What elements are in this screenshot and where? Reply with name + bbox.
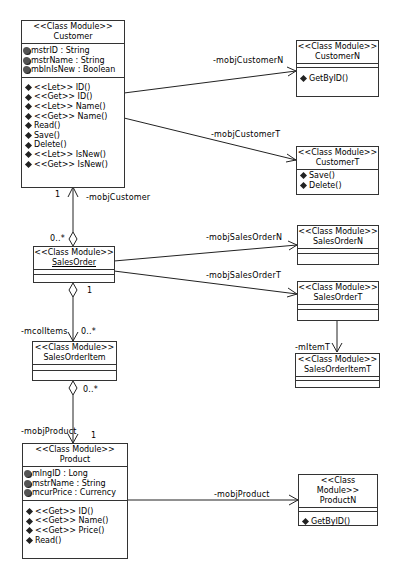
class-name: SalesOrderT xyxy=(298,293,378,303)
attribute: mlngID : Long xyxy=(24,469,126,479)
attribute: mstrName : String xyxy=(23,56,123,66)
class-name: Customer xyxy=(22,32,124,42)
class-header: <<Class Module>> Customer xyxy=(22,21,124,44)
public-method-icon xyxy=(25,84,32,91)
method: Save() xyxy=(24,131,122,141)
public-method-icon xyxy=(25,94,32,101)
public-method-icon xyxy=(26,508,33,515)
attribute: mstrID : String xyxy=(23,46,123,56)
class-customerT[interactable]: <<Class Module>> CustomerT Save() Delete… xyxy=(296,146,379,195)
attribute: mcurPrice : Currency xyxy=(24,488,126,498)
public-method-icon xyxy=(25,103,32,110)
method: <<Let>> IsNew() xyxy=(24,150,122,160)
method: <<Let>> ID() xyxy=(24,83,122,93)
stereotype: <<Class Module>> xyxy=(35,445,115,454)
class-salesorder[interactable]: <<Class Module>> SalesOrder xyxy=(33,246,115,283)
private-attribute-icon xyxy=(24,489,31,496)
stereotype: <<Class Module>> xyxy=(298,42,378,51)
role-label-productN: -mobjProduct xyxy=(214,490,270,499)
method: Delete() xyxy=(24,140,122,150)
role-label-customer: -mobjCustomer xyxy=(86,193,150,202)
class-header: <<Class Module>> SalesOrderT xyxy=(298,282,378,305)
method: <<Get>> Name() xyxy=(24,112,122,122)
stereotype: <<Class Module>> xyxy=(298,355,378,364)
multiplicity-customer-target: 0..* xyxy=(50,234,65,243)
class-salesorderN[interactable]: <<Class Module>> SalesOrderN xyxy=(297,225,379,265)
method: Read() xyxy=(25,536,125,546)
class-salesorderitemT[interactable]: <<Class Module>> SalesOrderItemT xyxy=(295,353,380,388)
private-attribute-icon xyxy=(24,480,31,487)
methods-section xyxy=(296,381,379,384)
stereotype: <<Class Module>> xyxy=(298,227,378,236)
attribute: mstrName : String xyxy=(24,479,126,489)
class-name: CustomerN xyxy=(297,52,378,62)
class-name: SalesOrderItem xyxy=(33,353,116,363)
method: <<Get>> Price() xyxy=(25,526,125,536)
stereotype: <<Class Module>> xyxy=(35,343,115,352)
method: Read() xyxy=(24,121,122,131)
methods-section: <<Get>> ID() <<Get>> Name() <<Get>> Pric… xyxy=(23,501,127,551)
multiplicity-product-source: 0..* xyxy=(83,385,98,394)
role-label-itemT: -mItemT xyxy=(295,343,330,352)
class-header: <<Class Module>> SalesOrderItemT xyxy=(296,354,379,377)
public-method-icon xyxy=(300,172,307,179)
class-name: SalesOrder xyxy=(34,258,114,268)
class-header: <<Class Module>> SalesOrderN xyxy=(298,226,378,249)
attributes-section: mlngID : Long mstrName : String mcurPric… xyxy=(23,467,127,501)
stereotype: <<Class Module>> xyxy=(298,148,378,157)
class-name: ProductN xyxy=(299,496,377,506)
method: GetByID() xyxy=(299,74,376,84)
role-label-customerN: -mobjCustomerN xyxy=(213,56,284,65)
stereotype: <<Class Module>> xyxy=(33,22,113,31)
role-label-customerT: -mobjCustomerT xyxy=(211,130,280,139)
class-customerN[interactable]: <<Class Module>> CustomerN GetByID() xyxy=(296,40,379,97)
class-customer[interactable]: <<Class Module>> Customer mstrID : Strin… xyxy=(21,20,125,188)
assoc-line-salesorder-salesorderN xyxy=(114,245,297,261)
methods-section: Save() Delete() xyxy=(297,170,378,191)
aggregation-diamond-item xyxy=(69,381,77,395)
multiplicity-items-target: 0..* xyxy=(81,327,96,336)
aggregation-diamond-salesorder xyxy=(69,232,77,246)
public-method-icon xyxy=(25,142,32,149)
attributes-section: mstrID : String mstrName : String mblnIs… xyxy=(22,44,124,78)
method: <<Get>> ID() xyxy=(24,92,122,102)
stereotype: <<Class Module>> xyxy=(317,476,360,495)
class-name: CustomerT xyxy=(297,158,378,168)
method: Save() xyxy=(299,171,376,181)
methods-section: GetByID() xyxy=(299,512,377,532)
class-name: SalesOrderN xyxy=(298,237,378,247)
public-method-icon xyxy=(26,518,33,525)
method: <<Get>> ID() xyxy=(25,507,125,517)
public-method-icon xyxy=(300,182,307,189)
stereotype: <<Class Module>> xyxy=(34,248,114,257)
class-productN[interactable]: <<Class Module>> ProductN GetByID() xyxy=(298,474,378,526)
class-header: <<Class Module>> ProductN xyxy=(299,475,377,508)
class-header: <<Class Module>> CustomerN xyxy=(297,41,378,64)
private-attribute-icon xyxy=(23,66,30,73)
methods-section xyxy=(34,275,114,279)
class-salesorderitem[interactable]: <<Class Module>> SalesOrderItem xyxy=(32,341,117,381)
class-salesorderT[interactable]: <<Class Module>> SalesOrderT xyxy=(297,281,379,321)
stereotype: <<Class Module>> xyxy=(298,283,378,292)
methods-section: GetByID() xyxy=(297,68,378,90)
methods-section: <<Let>> ID() <<Get>> ID() <<Let>> Name()… xyxy=(22,78,124,174)
assoc-line-customer-customerN xyxy=(124,71,296,93)
method: <<Let>> Name() xyxy=(24,102,122,112)
public-method-icon xyxy=(302,518,309,525)
private-attribute-icon xyxy=(23,57,30,64)
class-header: <<Class Module>> SalesOrder xyxy=(34,247,114,270)
method: Delete() xyxy=(299,181,376,191)
class-header: <<Class Module>> SalesOrderItem xyxy=(33,342,116,365)
public-method-icon xyxy=(25,161,32,168)
role-label-product: -mobjProduct xyxy=(21,427,77,436)
public-method-icon xyxy=(25,113,32,120)
public-method-icon xyxy=(25,122,32,129)
methods-section xyxy=(298,310,378,316)
class-header: <<Class Module>> CustomerT xyxy=(297,147,378,170)
role-label-salesorderN: -mobjSalesOrderN xyxy=(206,233,282,242)
role-label-salesorderT: -mobjSalesOrderT xyxy=(206,271,281,280)
class-product[interactable]: <<Class Module>> Product mlngID : Long m… xyxy=(22,443,128,559)
class-header: <<Class Module>> Product xyxy=(23,444,127,467)
public-method-icon xyxy=(26,527,33,534)
methods-section xyxy=(298,254,378,260)
